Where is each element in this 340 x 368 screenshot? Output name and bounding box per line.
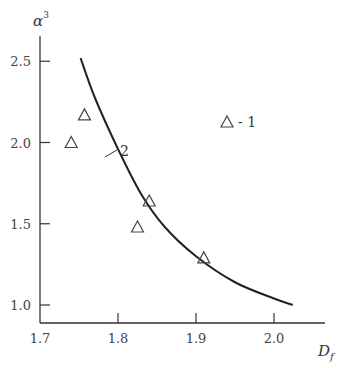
legend-triangle-icon <box>221 116 233 127</box>
curve-label-leader <box>105 150 117 157</box>
triangle-marker-icon <box>78 109 90 120</box>
x-axis-title: Df <box>317 342 336 362</box>
tick-marks: 1.01.52.02.51.71.81.92.0 <box>10 54 284 346</box>
y-axis-title: α3 <box>33 10 49 30</box>
plot-area: 1.01.52.02.51.71.81.92.0 α3 Df 2 - 1 <box>0 0 340 368</box>
y-tick-label: 1.0 <box>10 298 31 313</box>
legend-label: - 1 <box>238 114 256 130</box>
curve-label: 2 <box>120 143 129 159</box>
legend: - 1 <box>221 114 256 130</box>
curve-2 <box>81 58 293 305</box>
x-tick-label: 2.0 <box>264 331 285 346</box>
axes <box>40 36 325 323</box>
x-tick-label: 1.8 <box>108 331 129 346</box>
triangle-marker-icon <box>132 221 144 232</box>
y-tick-label: 2.5 <box>10 54 31 69</box>
triangle-marker-icon <box>65 137 77 148</box>
y-tick-label: 1.5 <box>10 217 31 232</box>
y-tick-label: 2.0 <box>10 136 31 151</box>
fit-curve <box>81 58 293 305</box>
x-tick-label: 1.7 <box>30 331 51 346</box>
x-tick-label: 1.9 <box>186 331 207 346</box>
chart: 1.01.52.02.51.71.81.92.0 α3 Df 2 - 1 <box>0 0 340 368</box>
